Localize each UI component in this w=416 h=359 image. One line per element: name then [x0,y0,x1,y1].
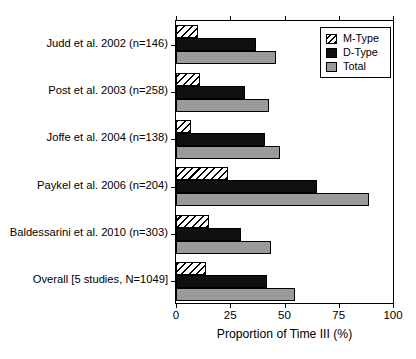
x-axis-tick-0 [176,303,177,308]
legend-label-d-type: D-Type [343,47,378,58]
x-axis-tick-label-4: 100 [383,309,402,321]
bar-m-type-group-0 [176,25,198,38]
bar-m-type-group-3 [176,167,228,180]
bar-m-type-group-5 [176,262,206,275]
x-axis-tick-top-3 [339,16,340,21]
y-axis-tick-1 [171,92,176,93]
y-axis-label-0: Judd et al. 2002 (n=146) [46,38,168,49]
bar-m-type-group-2 [176,120,191,133]
y-axis-label-3: Paykel et al. 2006 (n=204) [37,180,168,191]
y-axis-tick-5 [171,281,176,282]
y-axis-tick-0 [171,45,176,46]
x-axis-tick-label-2: 50 [278,309,291,321]
bar-d-type-group-4 [176,228,241,241]
bar-d-type-group-2 [176,133,265,146]
legend-entry-total: Total [326,60,385,73]
bar-d-type-group-1 [176,86,245,99]
x-axis-tick-3 [339,303,340,308]
legend-label-total: Total [343,61,366,72]
legend-swatch-d-type-icon [326,48,337,58]
y-axis-label-2: Joffe et al. 2004 (n=138) [47,132,168,143]
x-axis-tick-top-0 [176,16,177,21]
legend-swatch-m-type-icon [326,34,337,44]
bar-d-type-group-0 [176,38,256,51]
x-axis-tick-4 [393,303,394,308]
y-axis-tick-3 [171,187,176,188]
bar-m-type-group-4 [176,215,209,228]
x-axis-tick-top-1 [230,16,231,21]
x-axis-tick-label-0: 0 [173,309,179,321]
bar-total-group-5 [176,288,295,301]
x-axis-tick-label-1: 25 [224,309,237,321]
x-axis-tick-top-2 [285,16,286,21]
bar-total-group-2 [176,146,280,159]
chart-figure: Judd et al. 2002 (n=146)Post et al. 2003… [0,0,416,359]
x-axis-tick-top-4 [393,16,394,21]
bar-d-type-group-5 [176,275,267,288]
legend-label-m-type: M-Type [343,33,379,44]
y-axis-label-1: Post et al. 2003 (n=258) [48,85,168,96]
bar-m-type-group-1 [176,73,200,86]
chart-legend: M-Type D-Type Total [320,27,391,78]
y-axis-label-5: Overall [5 studies, N=1049] [33,274,168,285]
bar-d-type-group-3 [176,180,317,193]
y-axis-tick-2 [171,139,176,140]
bar-total-group-0 [176,51,276,64]
y-axis-tick-4 [171,234,176,235]
bar-total-group-1 [176,99,269,112]
legend-entry-m-type: M-Type [326,32,385,45]
legend-entry-d-type: D-Type [326,46,385,59]
bar-total-group-3 [176,193,369,206]
x-axis-tick-1 [230,303,231,308]
legend-swatch-total-icon [326,62,337,72]
bar-total-group-4 [176,241,271,254]
x-axis-title: Proportion of Time III (%) [175,327,394,341]
x-axis-tick-2 [285,303,286,308]
x-axis-tick-label-3: 75 [332,309,345,321]
y-axis-label-4: Baldessarini et al. 2010 (n=303) [10,227,168,238]
